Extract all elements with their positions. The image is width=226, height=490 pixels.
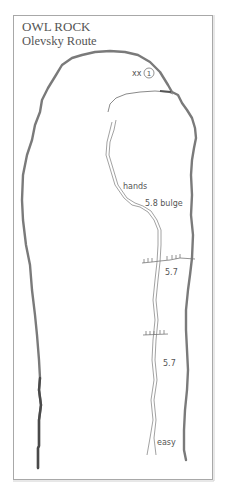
- route-line-right: [109, 120, 161, 455]
- ledge-lower: [143, 330, 168, 335]
- label-bulge: 5.8 bulge: [145, 199, 183, 208]
- label-grade-upper: 5.7: [165, 268, 178, 277]
- label-hands: hands: [123, 182, 147, 191]
- ledge-thick-segment: [160, 91, 171, 92]
- rock-outline-base: [38, 378, 41, 468]
- ledge-upper: [142, 254, 195, 263]
- label-grade-lower: 5.7: [163, 359, 176, 368]
- label-easy: easy: [157, 438, 176, 447]
- summit-ledge: [108, 91, 173, 112]
- rock-outline: [22, 51, 196, 468]
- pitch-number: 1: [147, 70, 151, 78]
- frame-border: [14, 16, 213, 480]
- anchor-bolts-label: xx: [132, 69, 142, 78]
- belay-anchor: xx 1: [132, 68, 154, 78]
- route-topo-diagram: xx 1 hands 5.8 bulge 5.7 5.7 easy: [0, 0, 226, 490]
